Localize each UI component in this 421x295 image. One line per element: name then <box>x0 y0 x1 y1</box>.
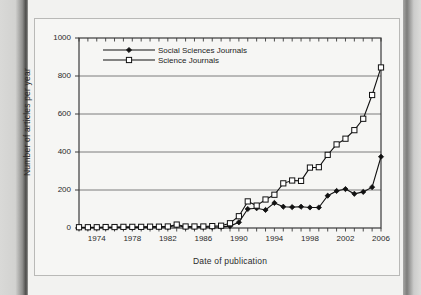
gridlines <box>79 76 381 190</box>
data-series-layer <box>76 65 383 230</box>
x-axis-title: Date of publication <box>79 256 381 266</box>
x-tick-label-1974: 1974 <box>80 234 114 243</box>
x-tick-label-1978: 1978 <box>115 234 149 243</box>
series-science-journals <box>76 65 383 230</box>
x-tick-label-1994: 1994 <box>257 234 291 243</box>
y-tick-label-200: 200 <box>37 185 71 194</box>
x-tick-label-1998: 1998 <box>293 234 327 243</box>
x-tick-label-1982: 1982 <box>151 234 185 243</box>
plot-area-border <box>79 38 381 228</box>
series-social-sciences-journals <box>76 154 383 230</box>
legend-label-science-journals: Science Journals <box>158 56 219 65</box>
x-tick-label-1990: 1990 <box>222 234 256 243</box>
x-tick-label-2002: 2002 <box>328 234 362 243</box>
y-tick-label-1000: 1000 <box>37 33 71 42</box>
y-tick-label-400: 400 <box>37 147 71 156</box>
x-tick-label-1986: 1986 <box>186 234 220 243</box>
legend-label-social-sciences-journals: Social Sciences Journals <box>158 46 247 55</box>
y-tick-label-0: 0 <box>37 223 71 232</box>
y-tick-label-800: 800 <box>37 71 71 80</box>
y-axis-title: Number of articles per year <box>22 37 32 207</box>
legend-markers <box>103 47 155 62</box>
y-tick-label-600: 600 <box>37 109 71 118</box>
x-tick-label-2006: 2006 <box>364 234 398 243</box>
